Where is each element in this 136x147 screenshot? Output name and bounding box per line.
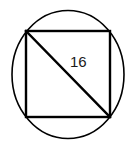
geometry-figure: 16 xyxy=(0,0,136,147)
diagonal-length-label: 16 xyxy=(70,53,87,70)
geometry-canvas: 16 xyxy=(0,0,136,147)
